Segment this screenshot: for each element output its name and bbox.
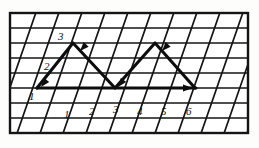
axis-label-vertical-2: 2 (44, 61, 50, 72)
axis-label-vertical-3: 3 (58, 31, 64, 42)
axis-label-horizontal-3: 3 (113, 104, 119, 115)
axis-label-horizontal-5: 5 (161, 106, 167, 117)
axis-label-horizontal-2: 2 (89, 106, 95, 117)
axis-label-horizontal-6: 6 (186, 106, 192, 117)
lattice-diagram-canvas (0, 0, 259, 148)
axis-label-horizontal-4: 4 (137, 106, 143, 117)
lattice-path-figure: 3 2 1 1 2 3 4 5 6 (0, 0, 259, 148)
axis-label-horizontal-1: 1 (64, 109, 70, 120)
axis-label-vertical-1: 1 (29, 91, 35, 102)
